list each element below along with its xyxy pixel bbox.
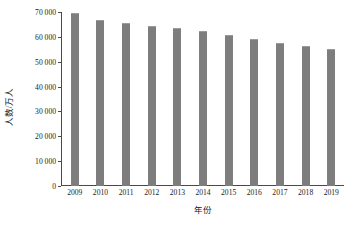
- y-tick-mark: [58, 12, 61, 13]
- x-tick-label: 2016: [241, 188, 267, 197]
- y-tick-mark: [58, 111, 61, 112]
- bar-slot: [241, 12, 267, 186]
- y-tick-label: 60 000: [0, 32, 56, 41]
- bar-slot: [216, 12, 242, 186]
- y-tick-label: 10 000: [0, 157, 56, 166]
- bar: [122, 23, 130, 186]
- bar-slot: [113, 12, 139, 186]
- bar: [276, 43, 284, 186]
- bar: [96, 20, 104, 186]
- bar: [327, 49, 335, 186]
- y-tick-mark: [58, 37, 61, 38]
- y-tick-label: 20 000: [0, 132, 56, 141]
- x-tick-label: 2010: [88, 188, 114, 197]
- bar: [71, 13, 79, 186]
- bar: [302, 46, 310, 186]
- y-tick-mark: [58, 136, 61, 137]
- y-tick-label: 0: [0, 182, 56, 191]
- bar: [250, 39, 258, 186]
- x-tick-label: 2009: [62, 188, 88, 197]
- x-axis-title: 年份: [62, 203, 344, 215]
- x-tick-label: 2012: [139, 188, 165, 197]
- y-tick-label: 40 000: [0, 82, 56, 91]
- x-tick-label: 2018: [293, 188, 319, 197]
- bar-slot: [62, 12, 88, 186]
- x-tick-label: 2011: [113, 188, 139, 197]
- y-tick-mark: [58, 62, 61, 63]
- bar-series: [62, 12, 344, 186]
- bar-slot: [267, 12, 293, 186]
- y-tick-mark: [58, 87, 61, 88]
- bar: [199, 31, 207, 186]
- y-tick-mark: [58, 161, 61, 162]
- bar-slot: [318, 12, 344, 186]
- bar-slot: [293, 12, 319, 186]
- y-tick-mark: [58, 186, 61, 187]
- x-tick-label: 2013: [165, 188, 191, 197]
- bar: [173, 28, 181, 186]
- y-tick-label: 50 000: [0, 57, 56, 66]
- bar-slot: [165, 12, 191, 186]
- x-tick-label: 2019: [318, 188, 344, 197]
- bar-slot: [88, 12, 114, 186]
- x-tick-label: 2014: [190, 188, 216, 197]
- x-axis-ticks: 2009201020112012201320142015201620172018…: [62, 188, 344, 197]
- x-tick-label: 2015: [216, 188, 242, 197]
- y-tick-label: 30 000: [0, 107, 56, 116]
- bar: [225, 35, 233, 186]
- bar-slot: [190, 12, 216, 186]
- x-tick-label: 2017: [267, 188, 293, 197]
- bar-chart: 人数/万人 010 00020 00030 00040 00050 00060 …: [0, 0, 360, 235]
- bar-slot: [139, 12, 165, 186]
- bar: [148, 26, 156, 186]
- y-tick-label: 70 000: [0, 8, 56, 17]
